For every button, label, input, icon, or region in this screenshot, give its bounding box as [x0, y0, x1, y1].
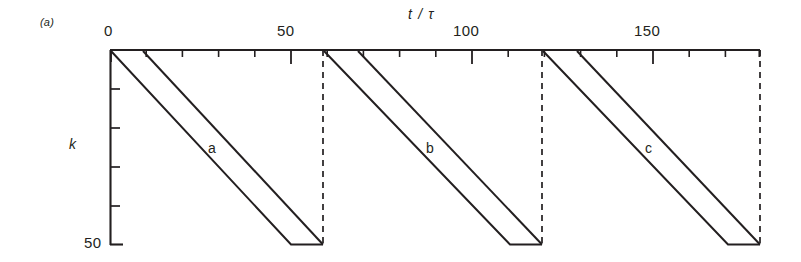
- band-a-lower-edge: [143, 51, 323, 245]
- band-label-a: a: [208, 141, 216, 155]
- panel-label: (a): [40, 17, 54, 28]
- x-tick-label-0: 0: [104, 23, 113, 38]
- x-tick-label-50: 50: [277, 23, 295, 38]
- y-axis-title: k: [69, 137, 76, 151]
- x-axis-title: t / τ: [408, 7, 435, 21]
- figure-panel-a: (a) t / τ 0 50 100 150 k 50 a b c: [0, 0, 801, 262]
- band-label-c: c: [645, 141, 652, 155]
- x-major-ticks: [111, 50, 653, 64]
- ramp-band-a: [111, 50, 323, 245]
- band-c-lower-edge: [577, 51, 760, 245]
- plot-canvas: [0, 0, 801, 262]
- band-a-upper-edge: [111, 51, 323, 245]
- band-label-b: b: [426, 141, 434, 155]
- x-tick-label-150: 150: [634, 23, 660, 38]
- x-tick-label-100: 100: [453, 23, 479, 38]
- y-tick-label-50: 50: [84, 235, 102, 250]
- band-b-lower-edge: [358, 51, 542, 245]
